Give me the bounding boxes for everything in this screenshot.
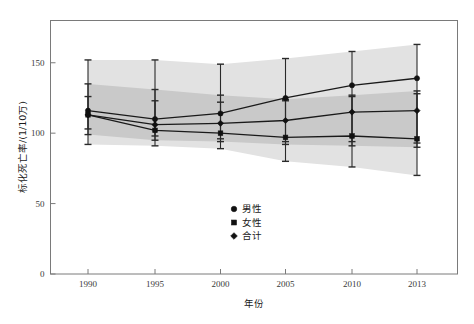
x-tick-label: 2010 xyxy=(343,279,362,289)
y-tick-label: 150 xyxy=(31,58,45,68)
chart-legend: 男性女性合计 xyxy=(231,203,262,241)
legend-label: 女性 xyxy=(242,217,262,228)
y-tick-label: 0 xyxy=(40,269,45,279)
data-point-circle xyxy=(414,76,419,81)
data-point-square xyxy=(153,128,158,133)
data-point-circle xyxy=(349,83,354,88)
x-axis-title: 年份 xyxy=(244,298,264,309)
data-point-square xyxy=(415,137,420,142)
legend-label: 男性 xyxy=(242,203,262,214)
y-tick-label: 100 xyxy=(31,128,45,138)
y-tick-label: 50 xyxy=(36,199,46,209)
legend-label: 合计 xyxy=(242,230,262,241)
data-point-square xyxy=(350,134,355,139)
y-axis-title: 标化死亡率/(1/10万) xyxy=(17,101,28,193)
x-tick-label: 2013 xyxy=(408,279,427,289)
chart-figure: 050100150 199019952000200520102013 标化死亡率… xyxy=(0,0,474,324)
data-point-circle xyxy=(283,95,288,100)
x-tick-label: 1990 xyxy=(79,279,98,289)
x-tick-label: 1995 xyxy=(146,279,165,289)
data-point-square xyxy=(283,135,288,140)
data-point-square xyxy=(218,131,223,136)
x-tick-label: 2000 xyxy=(212,279,231,289)
data-point-circle xyxy=(218,111,223,116)
legend-marker-circle xyxy=(231,206,237,212)
chart-canvas: 050100150 199019952000200520102013 标化死亡率… xyxy=(0,0,474,324)
data-point-circle xyxy=(152,117,157,122)
x-tick-label: 2005 xyxy=(277,279,296,289)
legend-marker-square xyxy=(232,220,237,225)
